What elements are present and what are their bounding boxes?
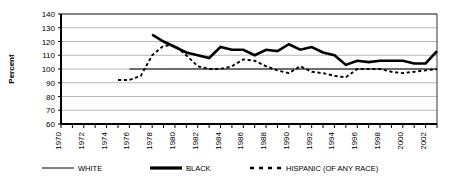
x-tick-label: 1976 — [122, 131, 131, 149]
y-tick-label: 140 — [42, 10, 56, 19]
x-tick-label: 1996 — [350, 131, 359, 149]
y-axis-title: Percent — [7, 54, 16, 84]
y-tick-label: 100 — [42, 65, 56, 74]
x-tick-label: 1972 — [77, 131, 86, 149]
y-tick-label: 110 — [42, 51, 55, 60]
x-tick-label: 1984 — [214, 131, 223, 149]
y-tick-label: 80 — [46, 93, 55, 102]
chart-legend: WHITEBLACKHISPANIC (OF ANY RACE) — [42, 164, 379, 173]
x-tick-label: 1990 — [282, 131, 291, 149]
y-axis-tick-labels: 14013012011010090807060 — [42, 10, 56, 129]
x-tick-label: 1986 — [236, 131, 245, 149]
y-tick-label: 130 — [42, 24, 56, 33]
y-tick-label: 70 — [46, 106, 55, 115]
x-tick-label: 2000 — [396, 131, 405, 149]
x-tick-label: 2002 — [419, 131, 428, 149]
x-tick-label: 1994 — [327, 131, 336, 149]
legend-label: HISPANIC (OF ANY RACE) — [286, 164, 379, 173]
legend-label: BLACK — [186, 164, 211, 173]
x-tick-label: 1970 — [54, 131, 63, 149]
x-tick-label: 1978 — [145, 131, 154, 149]
x-tick-label: 1988 — [259, 131, 268, 149]
x-tick-label: 1998 — [373, 131, 382, 149]
y-tick-label: 60 — [46, 120, 55, 129]
x-tick-label: 1982 — [191, 131, 200, 149]
legend-label: WHITE — [78, 164, 102, 173]
y-tick-label: 90 — [46, 79, 55, 88]
x-axis-tick-labels: 1970197219741976197819801982198419861988… — [54, 131, 428, 149]
line-chart: 14013012011010090807060 1970197219741976… — [0, 0, 452, 186]
chart-container: 14013012011010090807060 1970197219741976… — [0, 0, 452, 186]
x-tick-label: 1974 — [100, 131, 109, 149]
x-tick-label: 1992 — [305, 131, 314, 149]
y-tick-label: 120 — [42, 38, 56, 47]
x-tick-label: 1980 — [168, 131, 177, 149]
